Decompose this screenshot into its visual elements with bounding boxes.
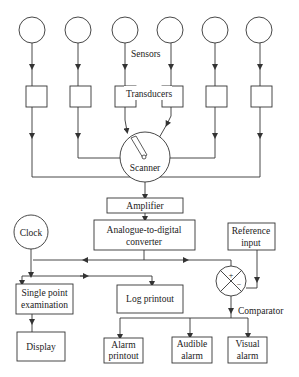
sensor-2: [65, 17, 91, 43]
visual-alarm-block: Visual alarm: [228, 337, 267, 363]
sensors-row: [19, 17, 272, 43]
sensor-3: [112, 17, 138, 43]
alarm-printout-label-line2: printout: [108, 351, 138, 361]
transducer-6: [251, 86, 272, 107]
clock-output-bus: [22, 249, 152, 284]
comparator: + − Comparator: [216, 266, 284, 316]
adc-block: Analogue-to-digital converter: [94, 220, 195, 250]
display-label: Display: [26, 342, 56, 352]
clock-block: Clock: [14, 215, 48, 249]
amplifier-block: Amplifier: [107, 198, 183, 213]
audible-alarm-label-line2: alarm: [181, 351, 203, 361]
transducers-label: Transducers: [126, 89, 172, 99]
reference-label-line2: input: [241, 238, 261, 248]
log-printout-label: Log printout: [126, 294, 174, 304]
visual-alarm-label-line1: Visual: [235, 339, 260, 349]
clock-label: Clock: [20, 228, 43, 238]
log-printout-block: Log printout: [117, 285, 183, 313]
adc-output-bus: [33, 250, 231, 266]
transducer-1: [26, 86, 47, 107]
adc-label-line2: converter: [126, 237, 163, 247]
data-logger-block-diagram: Sensors Transducers Scanner Amplifier An: [0, 0, 299, 377]
comparator-minus-sign: −: [237, 280, 242, 289]
sensor-5: [202, 17, 228, 43]
sensor-1: [19, 17, 45, 43]
adc-label-line1: Analogue-to-digital: [107, 225, 182, 235]
sensor-6: [246, 17, 272, 43]
sensors-label: Sensors: [131, 49, 161, 59]
transducer-2: [70, 86, 91, 107]
alarm-printout-label-line1: Alarm: [111, 340, 136, 350]
audible-alarm-block: Audible alarm: [172, 337, 212, 363]
alarm-printout-block: Alarm printout: [104, 338, 143, 363]
display-block: Display: [17, 332, 65, 361]
single-point-examination-block: Single point examination: [16, 284, 73, 314]
transducer-5: [206, 86, 227, 107]
comparator-plus-sign: +: [229, 271, 234, 280]
reference-label-line1: Reference: [232, 226, 271, 236]
amplifier-label: Amplifier: [126, 201, 164, 211]
scanner-label: Scanner: [130, 163, 161, 173]
sensor-4: [157, 17, 183, 43]
comparator-label: Comparator: [238, 306, 284, 316]
scanner: Scanner: [120, 132, 170, 182]
single-point-label-line1: Single point: [21, 288, 68, 298]
single-point-label-line2: examination: [21, 300, 68, 310]
reference-input-block: Reference input: [228, 223, 275, 250]
audible-alarm-label-line1: Audible: [177, 339, 208, 349]
visual-alarm-label-line2: alarm: [237, 351, 259, 361]
